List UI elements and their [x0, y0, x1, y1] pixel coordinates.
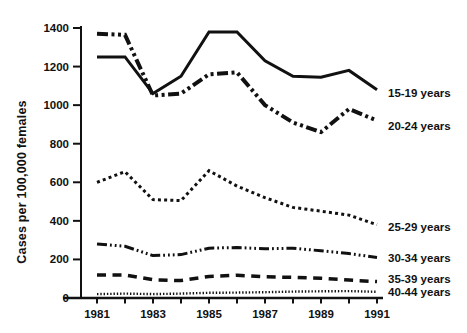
y-tick-label: 1400 — [43, 22, 69, 34]
legend-label-35-39: 35-39 years — [388, 273, 451, 285]
y-tick-label: 800 — [50, 138, 69, 150]
y-tick-label: 200 — [50, 253, 69, 265]
x-tick-label: 1985 — [196, 308, 222, 320]
y-tick-label: 600 — [50, 176, 69, 188]
y-tick-label: 0 — [63, 292, 69, 304]
series-line-25-29 — [97, 171, 377, 225]
legend-label-25-29: 25-29 years — [388, 221, 451, 233]
y-tick-label: 400 — [50, 215, 69, 227]
y-tick-label: 1200 — [43, 61, 69, 73]
y-axis-title: Cases per 100,000 females — [15, 62, 31, 302]
x-tick-label: 1981 — [84, 308, 110, 320]
series-line-30-34 — [97, 244, 377, 258]
legend-label-40-44: 40-44 years — [388, 286, 451, 298]
series-line-40-44 — [97, 291, 377, 294]
x-tick-label: 1983 — [140, 308, 166, 320]
legend-label-20-24: 20-24 years — [388, 120, 451, 132]
x-tick-label: 1991 — [364, 308, 390, 320]
x-tick-label: 1989 — [308, 308, 334, 320]
line-chart-figure: 0200400600800100012001400198119831985198… — [0, 0, 467, 333]
legend-label-15-19: 15-19 years — [388, 87, 451, 99]
legend-label-30-34: 30-34 years — [388, 252, 451, 264]
series-line-20-24 — [97, 34, 377, 132]
x-tick-label: 1987 — [252, 308, 278, 320]
series-line-35-39 — [97, 275, 377, 282]
y-tick-label: 1000 — [43, 99, 69, 111]
